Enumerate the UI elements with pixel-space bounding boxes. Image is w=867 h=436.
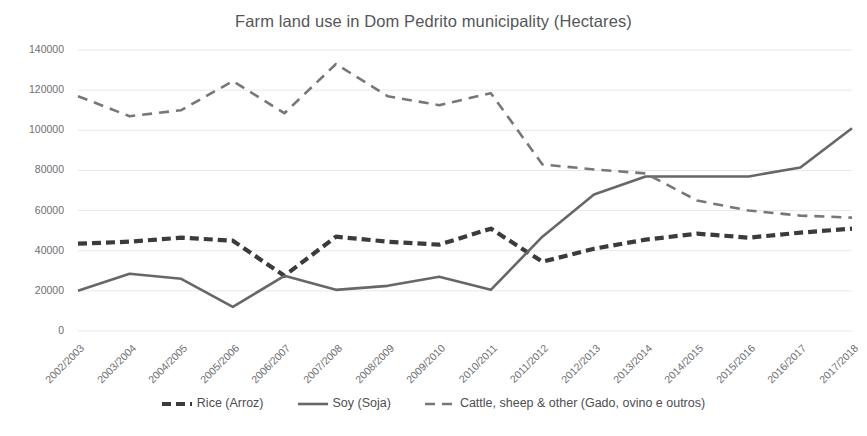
- chart-legend: Rice (Arroz)Soy (Soja)Cattle, sheep & ot…: [0, 396, 867, 410]
- chart-container: Farm land use in Dom Pedrito municipalit…: [0, 0, 867, 436]
- series-lines: [78, 64, 852, 307]
- series-line-0: [78, 229, 852, 276]
- legend-swatch-icon: [425, 398, 455, 408]
- legend-swatch-icon: [298, 398, 328, 408]
- y-axis-tick-label: 40000: [8, 244, 64, 256]
- legend-label: Rice (Arroz): [197, 396, 264, 410]
- series-line-1: [78, 128, 852, 307]
- y-axis-tick-label: 100000: [8, 123, 64, 135]
- legend-label: Soy (Soja): [333, 396, 391, 410]
- legend-label: Cattle, sheep & other (Gado, ovino e out…: [460, 396, 705, 410]
- gridlines: [78, 50, 852, 331]
- legend-item-1[interactable]: Soy (Soja): [298, 396, 391, 410]
- y-axis-tick-label: 120000: [8, 83, 64, 95]
- y-axis-tick-label: 80000: [8, 163, 64, 175]
- y-axis-tick-label: 0: [8, 324, 64, 336]
- y-axis-tick-label: 60000: [8, 204, 64, 216]
- legend-item-0[interactable]: Rice (Arroz): [162, 396, 264, 410]
- series-line-2: [78, 64, 852, 218]
- legend-swatch-icon: [162, 398, 192, 408]
- y-axis-tick-label: 20000: [8, 284, 64, 296]
- y-axis-tick-label: 140000: [8, 43, 64, 55]
- plot-area: [0, 0, 867, 436]
- legend-item-2[interactable]: Cattle, sheep & other (Gado, ovino e out…: [425, 396, 705, 410]
